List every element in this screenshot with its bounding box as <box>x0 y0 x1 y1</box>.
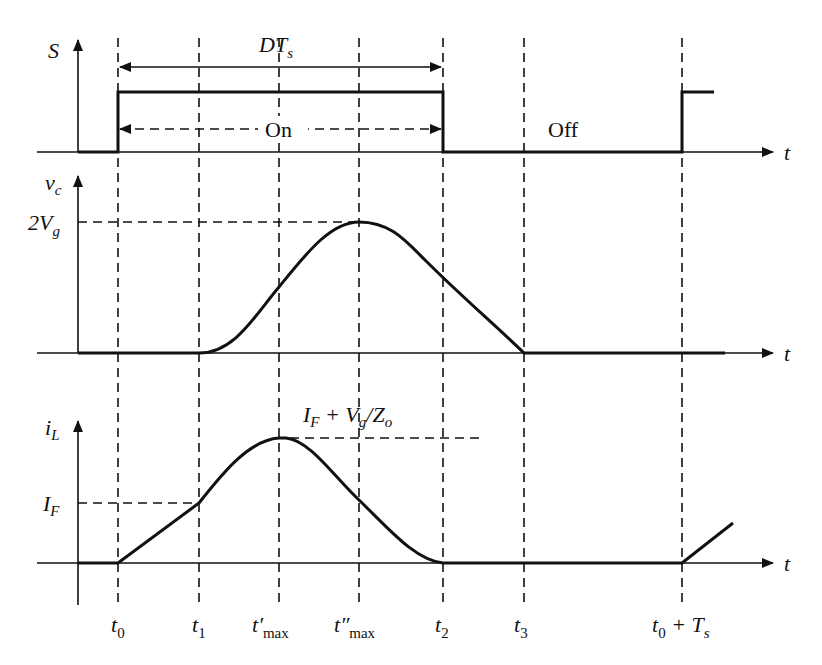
off-label: Off <box>548 117 579 142</box>
il-waveform <box>78 438 733 563</box>
label-tmax2: t″max <box>334 612 376 641</box>
vc-waveform <box>78 222 725 353</box>
switch-waveform <box>78 92 714 152</box>
label-t2: t2 <box>435 612 449 641</box>
label-tmax1: t′max <box>252 612 289 641</box>
vc-time-axis-label: t <box>784 341 791 366</box>
vc-peak-label: 2Vg <box>28 210 60 239</box>
vc-axis-label: vc <box>45 170 62 198</box>
time-marker-lines <box>118 38 682 605</box>
il-peak-label: IF + Vg/Zo <box>302 402 393 430</box>
timing-diagram-svg: S DTs On Off t vc 2Vg t iL IF IF + Vg/Zo… <box>0 0 822 665</box>
time-axes <box>37 152 773 563</box>
s-axis-label: S <box>48 38 59 63</box>
s-time-axis-label: t <box>784 140 791 165</box>
label-t0: t0 <box>111 612 125 641</box>
label-t1: t1 <box>192 612 206 641</box>
timing-diagram: S DTs On Off t vc 2Vg t iL IF IF + Vg/Zo… <box>0 0 822 665</box>
label-t0-plus-ts: t0 + Ts <box>652 612 710 641</box>
time-marker-labels: t0 t1 t′max t″max t2 t3 t0 + Ts <box>111 612 710 641</box>
if-level-label: IF <box>42 491 60 519</box>
il-axis-label: iL <box>45 415 59 443</box>
label-t3: t3 <box>514 612 528 641</box>
il-time-axis-label: t <box>784 551 791 576</box>
duty-cycle-label: DTs <box>258 32 293 61</box>
on-label: On <box>265 117 292 142</box>
